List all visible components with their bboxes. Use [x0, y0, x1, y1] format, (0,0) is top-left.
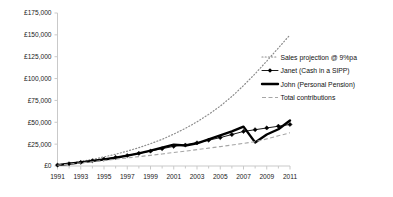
- legend-label-0: Sales projection @ 9%pa: [281, 54, 358, 62]
- legend-item-2: John (Personal Pension): [262, 81, 355, 89]
- x-axis-tick-label: 1991: [50, 173, 65, 180]
- x-axis-tick-label: 2011: [283, 173, 298, 180]
- legend-label-1: Janet (Cash in a SIPP): [281, 67, 350, 75]
- y-axis-tick-label: £125,000: [24, 53, 52, 60]
- legend-item-0: Sales projection @ 9%pa: [262, 54, 357, 62]
- y-axis-tick-label: £50,000: [28, 119, 52, 126]
- x-axis-tick-label: 1997: [120, 173, 135, 180]
- legend-item-1: Janet (Cash in a SIPP): [262, 67, 350, 75]
- series-marker: [265, 126, 269, 130]
- x-axis-tick-label: 1999: [143, 173, 158, 180]
- x-axis-tick-label: 2001: [166, 173, 181, 180]
- x-axis-tick-label: 2003: [190, 173, 205, 180]
- legend-item-3: Total contributions: [262, 94, 336, 101]
- legend-label-3: Total contributions: [281, 94, 336, 101]
- chart-container: £0£25,000£50,000£75,000£100,000£125,000£…: [0, 0, 393, 197]
- legend-label-2: John (Personal Pension): [281, 81, 355, 89]
- y-axis-tick-label: £100,000: [24, 75, 52, 82]
- y-axis-tick-label: £150,000: [24, 31, 52, 38]
- y-axis-tick-label: £0: [44, 162, 52, 169]
- y-axis-tick-label: £25,000: [28, 141, 52, 148]
- y-axis-tick-label: £75,000: [28, 97, 52, 104]
- series-marker: [253, 128, 257, 132]
- x-axis-tick-label: 2009: [259, 173, 274, 180]
- x-axis-tick-label: 2005: [213, 173, 228, 180]
- legend-marker-1: [268, 68, 273, 73]
- x-axis-tick-label: 1993: [73, 173, 88, 180]
- x-axis-tick-label: 2007: [236, 173, 251, 180]
- x-axis-tick-label: 1995: [97, 173, 112, 180]
- line-chart: £0£25,000£50,000£75,000£100,000£125,000£…: [0, 0, 393, 197]
- y-axis-tick-label: £175,000: [24, 9, 52, 16]
